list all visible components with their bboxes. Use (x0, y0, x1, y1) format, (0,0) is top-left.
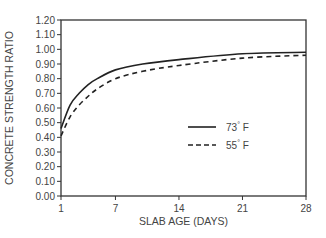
y-axis-ticks: 0.000.100.200.300.400.500.600.700.800.90… (36, 15, 61, 202)
series-55f-line (61, 55, 306, 136)
legend-label: 73° F (226, 121, 249, 133)
y-tick-label: 0.30 (36, 147, 56, 158)
series-73f-line (61, 52, 306, 128)
strength-ratio-chart: 0.000.100.200.300.400.500.600.700.800.90… (0, 0, 326, 238)
data-series (61, 52, 306, 136)
x-tick-label: 1 (58, 203, 64, 214)
y-tick-label: 0.60 (36, 103, 56, 114)
plot-frame (61, 20, 306, 196)
y-tick-label: 1.10 (36, 29, 56, 40)
y-tick-label: 0.10 (36, 176, 56, 187)
y-tick-label: 0.50 (36, 117, 56, 128)
y-tick-label: 0.80 (36, 73, 56, 84)
x-axis-title: SLAB AGE (DAYS) (139, 215, 228, 227)
y-tick-label: 0.70 (36, 88, 56, 99)
y-axis-title: CONCRETE STRENGTH RATIO (3, 31, 15, 185)
y-tick-label: 0.20 (36, 161, 56, 172)
y-tick-label: 0.90 (36, 59, 56, 70)
x-tick-label: 21 (237, 203, 249, 214)
legend: 73° F55° F (188, 121, 249, 151)
x-tick-label: 28 (300, 203, 312, 214)
legend-label: 55° F (226, 139, 249, 151)
x-tick-label: 14 (173, 203, 185, 214)
x-axis-ticks: 17142128 (58, 196, 312, 214)
y-tick-label: 1.20 (36, 15, 56, 26)
plot-border (61, 20, 306, 196)
x-tick-label: 7 (113, 203, 119, 214)
y-tick-label: 0.00 (36, 191, 56, 202)
y-tick-label: 0.40 (36, 132, 56, 143)
y-tick-label: 1.00 (36, 44, 56, 55)
